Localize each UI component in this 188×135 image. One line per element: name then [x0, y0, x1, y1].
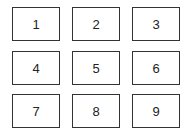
grid-cell-3[interactable]: 3: [132, 7, 180, 41]
grid-cell-5[interactable]: 5: [72, 51, 120, 85]
cell-label: 4: [32, 62, 39, 75]
grid-cell-6[interactable]: 6: [132, 51, 180, 85]
cell-label: 8: [92, 105, 99, 118]
number-grid: 1 2 3 4 5 6 7 8 9: [0, 0, 188, 135]
cell-label: 6: [152, 62, 159, 75]
grid-cell-1[interactable]: 1: [12, 7, 60, 41]
grid-cell-2[interactable]: 2: [72, 7, 120, 41]
cell-label: 7: [32, 105, 39, 118]
grid-cell-7[interactable]: 7: [12, 94, 60, 128]
cell-label: 1: [32, 18, 39, 31]
cell-label: 2: [92, 18, 99, 31]
cell-label: 5: [92, 62, 99, 75]
grid-cell-4[interactable]: 4: [12, 51, 60, 85]
grid-cell-8[interactable]: 8: [72, 94, 120, 128]
cell-label: 3: [152, 18, 159, 31]
cell-label: 9: [152, 105, 159, 118]
grid-cell-9[interactable]: 9: [132, 94, 180, 128]
